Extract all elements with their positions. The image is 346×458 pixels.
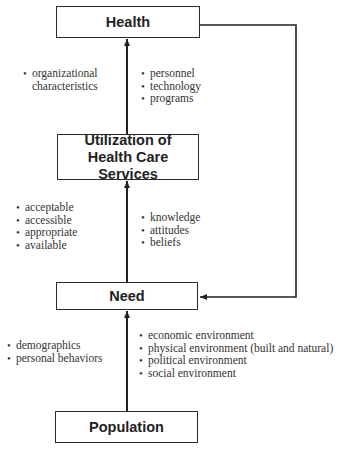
bullet-icon: • [16,239,20,252]
bullet-icon: • [139,329,143,342]
bullet-icon: • [16,214,20,227]
bullet-icon: • [141,67,145,80]
bullet-icon: • [16,226,20,239]
bullet-item: •political environment [138,354,333,367]
bullet-icon: • [139,367,143,380]
bullet-icon: • [7,339,11,352]
node-utilization-label: Utilization of Health Care Services [68,132,188,183]
bullet-item: •demographics [6,339,103,352]
health-left-factors: • organizational characteristics [22,67,98,92]
node-population-label: Population [89,419,164,436]
bullet-item: •programs [140,92,201,105]
bullet-icon: • [16,201,20,214]
bullet-icon: • [141,211,145,224]
bullet-icon: • [141,236,145,249]
need-left-factors: •demographics •personal behaviors [6,339,103,364]
bullet-item: •knowledge [140,211,200,224]
bullet-item: •appropriate [15,226,77,239]
need-right-factors: •economic environment •physical environm… [138,329,333,379]
bullet-item: •available [15,239,77,252]
node-utilization: Utilization of Health Care Services [57,134,199,180]
bullet-icon: • [23,67,27,80]
bullet-item: •accessible [15,214,77,227]
node-population: Population [55,411,198,443]
bullet-icon: • [141,92,145,105]
utilization-right-factors: •knowledge •attitudes •beliefs [140,211,200,249]
bullet-icon: • [7,352,11,365]
bullet-item: •beliefs [140,236,200,249]
node-need: Need [56,282,198,310]
utilization-left-factors: •acceptable •accessible •appropriate •av… [15,201,77,251]
bullet-icon: • [139,354,143,367]
node-health-label: Health [106,14,150,31]
arrow-health-feedback-to-need [200,25,296,297]
bullet-icon: • [141,224,145,237]
bullet-item: •personnel [140,67,201,80]
bullet-item: •physical environment (built and natural… [138,342,333,355]
bullet-item: •social environment [138,367,333,380]
health-right-factors: •personnel •technology •programs [140,67,201,105]
node-health: Health [56,6,200,38]
bullet-item: • organizational characteristics [22,67,98,92]
bullet-icon: • [139,342,143,355]
node-need-label: Need [109,288,144,305]
bullet-item: •acceptable [15,201,77,214]
bullet-item: •economic environment [138,329,333,342]
bullet-item: •technology [140,80,201,93]
bullet-item: •personal behaviors [6,352,103,365]
bullet-item: •attitudes [140,224,200,237]
bullet-icon: • [141,80,145,93]
